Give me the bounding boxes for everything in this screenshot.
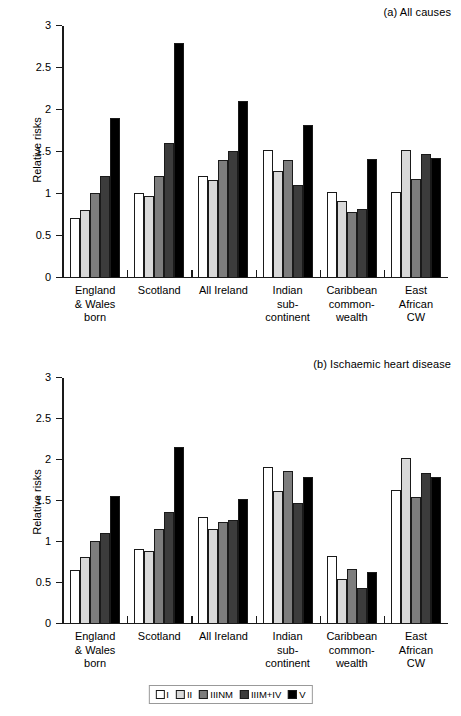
bar-group xyxy=(320,26,384,277)
y-tick: 0.5 xyxy=(56,582,62,583)
legend: IIIIIINMIIIM+IVV xyxy=(148,685,312,704)
bar xyxy=(283,160,293,277)
bar xyxy=(347,569,357,623)
x-axis-separator-tick xyxy=(256,616,257,624)
x-category-label-line: Indian xyxy=(256,284,320,298)
x-category-label-line: England xyxy=(63,284,127,298)
x-category-label-line: Scotland xyxy=(127,630,191,644)
bar-group xyxy=(191,26,255,277)
bar xyxy=(347,212,357,276)
x-category-label-line: All Ireland xyxy=(191,630,255,644)
y-tick: 1 xyxy=(56,193,62,194)
x-category-label-line: & Wales xyxy=(63,298,127,312)
y-tick-label: 1 xyxy=(45,187,51,199)
bar xyxy=(367,159,377,277)
panel-a-x-labels: England& WalesbornScotlandAll IrelandInd… xyxy=(63,284,448,325)
x-category-label-line: England xyxy=(63,630,127,644)
x-category-label: England& Walesborn xyxy=(63,284,127,325)
bar-group-bars xyxy=(134,378,184,623)
x-axis-separator-tick xyxy=(191,270,192,278)
y-tick: 3 xyxy=(56,25,62,26)
y-tick: 1.5 xyxy=(56,151,62,152)
bar xyxy=(144,196,154,276)
bar-group xyxy=(191,378,255,623)
x-category-label-line: Scotland xyxy=(127,284,191,298)
x-axis-separator-tick xyxy=(191,616,192,624)
bar-group-bars xyxy=(70,378,120,623)
legend-item-label: I xyxy=(166,689,169,700)
bar xyxy=(391,192,401,276)
legend-item-label: V xyxy=(299,689,305,700)
y-tick-label: 2 xyxy=(45,103,51,115)
x-axis-separator-tick xyxy=(384,616,385,624)
bar xyxy=(90,193,100,277)
x-axis-separator-tick xyxy=(320,616,321,624)
bar xyxy=(208,180,218,276)
bar xyxy=(327,192,337,276)
bar xyxy=(303,125,313,276)
bar xyxy=(110,496,120,622)
x-category-label-line: African xyxy=(384,298,448,312)
bar xyxy=(421,473,431,623)
y-tick-label: 2 xyxy=(45,453,51,465)
bar xyxy=(70,570,80,623)
x-category-label: Scotland xyxy=(127,630,191,671)
y-tick: 2.5 xyxy=(56,67,62,68)
bar-group-bars xyxy=(198,26,248,277)
x-category-label-line: CW xyxy=(384,311,448,325)
y-tick-label: 2.5 xyxy=(36,61,51,73)
x-category-label-line: African xyxy=(384,644,448,658)
bar xyxy=(293,185,303,277)
x-category-label-line: All Ireland xyxy=(191,284,255,298)
x-category-label: All Ireland xyxy=(191,284,255,325)
y-tick-label: 2.5 xyxy=(36,412,51,424)
bar-group-bars xyxy=(391,26,441,277)
bar xyxy=(273,171,283,276)
legend-item-label: IIINM xyxy=(210,689,233,700)
legend-item: IIIM+IV xyxy=(240,689,281,700)
bar-group xyxy=(63,378,127,623)
y-tick-label: 3 xyxy=(45,371,51,383)
bar-group-bars xyxy=(327,378,377,623)
y-tick-label: 3 xyxy=(45,19,51,31)
y-tick-label: 0.5 xyxy=(36,576,51,588)
y-tick-label: 0.5 xyxy=(36,229,51,241)
bar xyxy=(283,471,293,623)
y-tick: 1 xyxy=(56,541,62,542)
x-axis-separator-tick xyxy=(127,616,128,624)
bar xyxy=(327,556,337,623)
bar-group xyxy=(127,378,191,623)
bar xyxy=(273,491,283,622)
panel-a-plot-area: 00.511.522.53 xyxy=(62,26,448,278)
bar-group-bars xyxy=(263,26,313,277)
bar xyxy=(263,467,273,623)
bar xyxy=(238,101,248,276)
panel-b-bar-groups xyxy=(63,378,448,623)
legend-item-label: II xyxy=(187,689,192,700)
bar xyxy=(174,447,184,622)
bar xyxy=(337,201,347,277)
y-tick: 0 xyxy=(56,623,62,624)
bar xyxy=(164,143,174,277)
x-category-label: All Ireland xyxy=(191,630,255,671)
y-tick: 3 xyxy=(56,377,62,378)
bar xyxy=(357,588,367,622)
bar xyxy=(90,541,100,622)
legend-item: IIINM xyxy=(199,689,233,700)
bar xyxy=(154,529,164,623)
bar-group xyxy=(127,26,191,277)
bar-group xyxy=(384,378,448,623)
x-category-label-line: East xyxy=(384,284,448,298)
bar xyxy=(401,458,411,623)
x-axis-separator-tick xyxy=(320,270,321,278)
x-category-label-line: Caribbean xyxy=(320,284,384,298)
y-tick: 1.5 xyxy=(56,500,62,501)
x-category-label-line: wealth xyxy=(320,311,384,325)
bar xyxy=(238,499,248,622)
panel-all-causes: (a) All causes Relative risks 00.511.522… xyxy=(0,0,461,350)
legend-swatch-icon xyxy=(176,690,185,699)
bar xyxy=(367,572,377,623)
bar xyxy=(431,158,441,277)
legend-swatch-icon xyxy=(155,690,164,699)
panel-a-title: (a) All causes xyxy=(384,6,451,18)
